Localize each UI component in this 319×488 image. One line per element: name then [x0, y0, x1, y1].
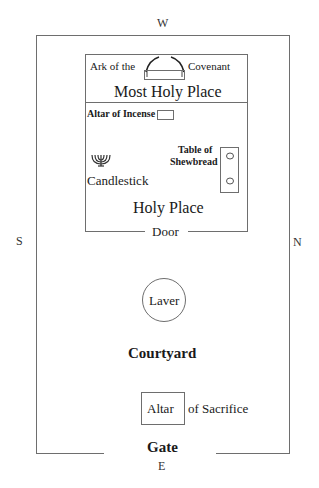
- gate-label: Gate: [147, 440, 178, 455]
- altar-of-incense-label: Altar of Incense: [87, 109, 155, 119]
- compass-north: N: [293, 236, 302, 248]
- ark-of-covenant-icon: [140, 54, 190, 82]
- wall-bottom-left: [36, 453, 104, 454]
- wall-bottom-right: [216, 453, 290, 454]
- candlestick-label: Candlestick: [87, 174, 148, 187]
- tabernacle-bottom-right: [188, 231, 248, 232]
- altar-of-incense-box: [157, 110, 174, 120]
- compass-west: W: [157, 17, 168, 29]
- most-holy-place-title: Most Holy Place: [114, 84, 222, 100]
- altar-suffix-label: of Sacrifice: [188, 402, 248, 415]
- courtyard-title: Courtyard: [128, 346, 196, 361]
- wall-left: [36, 35, 37, 454]
- veil-divider: [85, 102, 248, 103]
- altar-label: Altar: [147, 402, 174, 415]
- ark-label-left: Ark of the: [90, 61, 135, 72]
- laver-label: Laver: [149, 294, 179, 307]
- table-label-line1: Table of: [178, 145, 212, 155]
- wall-right: [289, 35, 290, 454]
- compass-south: S: [16, 235, 23, 247]
- tabernacle-bottom-left: [85, 231, 145, 232]
- holy-place-title: Holy Place: [133, 200, 204, 216]
- candlestick-icon: [90, 154, 112, 168]
- compass-east: E: [158, 460, 165, 472]
- tabernacle-right: [247, 54, 248, 232]
- table-label-line2: Shewbread: [170, 157, 218, 167]
- door-label: Door: [152, 225, 179, 238]
- ark-label-right: Covenant: [188, 61, 230, 72]
- shewbread-loaf-icon: [225, 152, 235, 192]
- tabernacle-left: [85, 54, 86, 232]
- wall-top: [36, 35, 290, 36]
